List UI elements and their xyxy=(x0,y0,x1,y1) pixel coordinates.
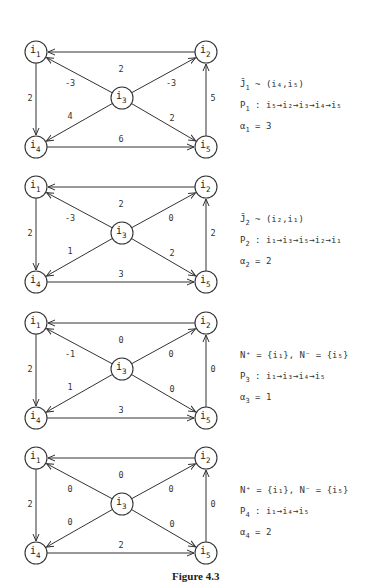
edge-i3-i5 xyxy=(132,239,196,276)
node-i3: i3 xyxy=(111,222,133,244)
node-i1: i1 xyxy=(25,176,47,198)
edge-weight-i3-i1: -3 xyxy=(65,213,75,223)
node-i4: i4 xyxy=(25,407,47,429)
constraint-line: J̄2 ~ (i₂,i₁) xyxy=(240,209,342,230)
node-i4: i4 xyxy=(25,542,47,564)
path-line: P2 : i₁→i₃→i₅→i₂→i₁ xyxy=(240,230,342,251)
edge-weight-i3-i1: -1 xyxy=(65,349,75,359)
edge-i3-i1 xyxy=(47,329,113,364)
edge-weight-i3-i2: 0 xyxy=(168,349,173,359)
node-i2: i2 xyxy=(195,447,217,469)
edge-i3-i1 xyxy=(47,464,113,499)
node-i4: i4 xyxy=(25,271,47,293)
node-i3: i3 xyxy=(111,493,133,515)
edge-weight-i4-i5: 6 xyxy=(118,134,123,144)
panel-2-annotation: J̄2 ~ (i₂,i₁)P2 : i₁→i₃→i₅→i₂→i₁α2 = 2 xyxy=(240,209,342,272)
constraint-line: J̄1 ~ (i₄,i₅) xyxy=(240,74,342,95)
panel-3-annotation: N⁺ = {i₁}, N⁻ = {i₅}P3 : i₁→i₃→i₄→i₅α3 =… xyxy=(240,345,348,408)
edge-i3-i4 xyxy=(46,509,112,547)
node-i1: i1 xyxy=(25,41,47,63)
edge-weight-i3-i2: 0 xyxy=(168,484,173,494)
constraint-line: N⁺ = {i₁}, N⁻ = {i₅} xyxy=(240,480,348,501)
flow-amount-line: α4 = 2 xyxy=(240,522,348,543)
edge-weight-i4-i5: 2 xyxy=(118,540,123,550)
edge-weight-i2-i1: 0 xyxy=(118,335,123,345)
flow-amount-line: α2 = 2 xyxy=(240,251,342,272)
constraint-line: N⁺ = {i₁}, N⁻ = {i₅} xyxy=(240,345,348,366)
edge-weight-i5-i2: 0 xyxy=(210,499,215,509)
flow-amount-line: α1 = 3 xyxy=(240,116,342,137)
edge-i3-i5 xyxy=(132,104,196,141)
edge-weight-i3-i1: -3 xyxy=(65,78,75,88)
node-i4: i4 xyxy=(25,136,47,158)
edge-weight-i3-i4: 0 xyxy=(67,517,72,527)
edge-i3-i2 xyxy=(132,329,196,364)
graph-panel-1: 2-3-325426i1i2i3i4i5 xyxy=(25,41,217,158)
node-i5: i5 xyxy=(195,136,217,158)
panel-1-annotation: J̄1 ~ (i₄,i₅)P1 : i₅→i₂→i₃→i₄→i₅α1 = 3 xyxy=(240,74,342,137)
edge-weight-i4-i5: 3 xyxy=(118,405,123,415)
node-i1: i1 xyxy=(25,312,47,334)
node-i3: i3 xyxy=(111,87,133,109)
edge-i3-i4 xyxy=(46,238,112,276)
edge-i3-i2 xyxy=(132,464,196,499)
edge-weight-i5-i2: 5 xyxy=(210,93,215,103)
edge-weight-i3-i5: 2 xyxy=(169,248,174,258)
node-i2: i2 xyxy=(195,312,217,334)
graph-panel-4: 00020002i1i2i3i4i5 xyxy=(25,447,217,564)
node-i2: i2 xyxy=(195,176,217,198)
edge-weight-i3-i4: 1 xyxy=(67,382,72,392)
edge-weight-i3-i2: -3 xyxy=(166,78,176,88)
node-i1: i1 xyxy=(25,447,47,469)
node-i5: i5 xyxy=(195,407,217,429)
edge-i3-i2 xyxy=(132,193,196,228)
edge-weight-i3-i1: 0 xyxy=(67,484,72,494)
edge-weight-i3-i4: 4 xyxy=(67,111,72,121)
edge-weight-i2-i1: 2 xyxy=(118,199,123,209)
node-i5: i5 xyxy=(195,542,217,564)
edge-weight-i1-i4: 2 xyxy=(27,93,32,103)
graph-panel-3: 0-1020103i1i2i3i4i5 xyxy=(25,312,217,429)
edge-weight-i5-i2: 2 xyxy=(210,228,215,238)
edge-weight-i2-i1: 0 xyxy=(118,470,123,480)
edge-weight-i3-i5: 2 xyxy=(169,113,174,123)
edge-i3-i2 xyxy=(132,58,196,93)
panel-4-annotation: N⁺ = {i₁}, N⁻ = {i₅}P4 : i₁→i₄→i₅α4 = 2 xyxy=(240,480,348,543)
graph-panel-2: 2-3022123i1i2i3i4i5 xyxy=(25,176,217,293)
edge-weight-i5-i2: 0 xyxy=(210,364,215,374)
edge-weight-i2-i1: 2 xyxy=(118,64,123,74)
node-i2: i2 xyxy=(195,41,217,63)
edge-weight-i4-i5: 3 xyxy=(118,269,123,279)
path-line: P4 : i₁→i₄→i₅ xyxy=(240,501,348,522)
edge-weight-i3-i5: 0 xyxy=(169,519,174,529)
path-line: P1 : i₅→i₂→i₃→i₄→i₅ xyxy=(240,95,342,116)
node-i5: i5 xyxy=(195,271,217,293)
edge-weight-i1-i4: 2 xyxy=(27,364,32,374)
edge-i3-i1 xyxy=(47,58,113,93)
edge-weight-i1-i4: 2 xyxy=(27,228,32,238)
edge-weight-i3-i5: 0 xyxy=(169,384,174,394)
edge-i3-i4 xyxy=(46,103,112,141)
flow-amount-line: α3 = 1 xyxy=(240,387,348,408)
edge-weight-i3-i4: 1 xyxy=(67,246,72,256)
edge-i3-i4 xyxy=(46,374,112,412)
node-i3: i3 xyxy=(111,358,133,380)
edge-i3-i5 xyxy=(132,510,196,547)
edge-weight-i1-i4: 2 xyxy=(27,499,32,509)
edge-i3-i1 xyxy=(47,193,113,228)
edge-weight-i3-i2: 0 xyxy=(168,213,173,223)
figure-caption: Figure 4.3 xyxy=(172,570,219,582)
edge-i3-i5 xyxy=(132,375,196,412)
path-line: P3 : i₁→i₃→i₄→i₅ xyxy=(240,366,348,387)
